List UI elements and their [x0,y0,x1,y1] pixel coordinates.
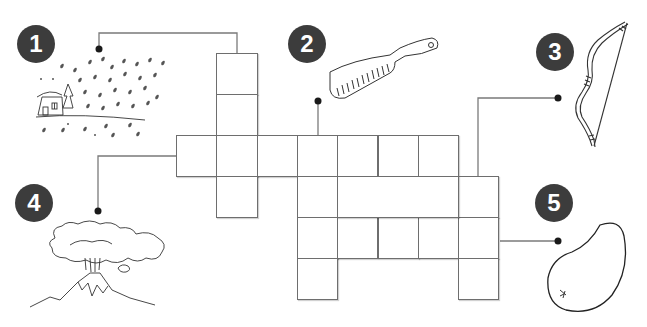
crossword-cell[interactable] [257,135,298,177]
bow-icon [576,22,628,147]
crossword-cell[interactable] [216,135,257,177]
crossword-cell[interactable] [297,258,338,300]
crossword-cell[interactable] [458,217,499,259]
crossword-cell[interactable] [378,217,419,259]
crossword-cell[interactable] [297,217,338,259]
crossword-cell[interactable] [337,135,378,177]
crossword-cell[interactable] [216,53,257,95]
filler-box [337,176,459,218]
crossword-cell[interactable] [297,135,338,177]
crossword-cell[interactable] [418,135,459,177]
dot-2 [315,98,322,105]
snow-house-icon [36,56,166,138]
crossword-puzzle: 12345 [0,0,647,327]
connector-1 [99,33,237,53]
volcano-icon [30,221,164,307]
crossword-cell[interactable] [297,176,338,218]
crossword-cell[interactable] [458,176,499,218]
crossword-cell[interactable] [337,217,378,259]
potato-icon [548,223,626,311]
clue-number-badge: 1 [17,25,55,63]
clue-number-badge: 2 [288,25,326,63]
dot-4 [95,208,102,215]
connector-4 [98,156,176,211]
dot-1 [96,46,103,53]
clue-number-badge: 3 [536,33,574,71]
crossword-cell[interactable] [378,135,419,177]
dot-3 [555,95,562,102]
comb-icon [330,38,438,98]
crossword-cell[interactable] [216,176,257,218]
crossword-cell[interactable] [176,135,217,177]
dot-5 [555,238,562,245]
crossword-cell[interactable] [458,258,499,300]
crossword-cell[interactable] [216,94,257,136]
crossword-cell[interactable] [418,217,459,259]
clue-number-badge: 5 [535,184,573,222]
connector-3 [478,98,558,176]
clue-number-badge: 4 [15,184,53,222]
